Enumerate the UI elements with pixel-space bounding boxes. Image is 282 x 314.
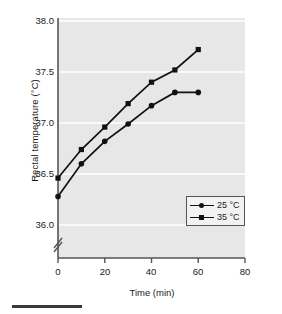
legend-item-35c: 35 °C	[190, 211, 240, 223]
data-point-square	[149, 80, 154, 85]
legend-label: 35 °C	[217, 212, 240, 222]
data-point-circle	[102, 139, 108, 145]
x-axis-title: Time (min)	[58, 287, 246, 298]
legend: 25 °C 35 °C	[186, 196, 245, 226]
x-axis-tick-labels: 0 20 40 60 80	[0, 266, 282, 280]
data-point-circle	[172, 90, 178, 96]
figure-chart: Rectal temperature (°C) 38.0 37.5 37.0 3…	[0, 0, 282, 314]
data-point-square	[172, 67, 177, 72]
caption-rule	[12, 305, 82, 308]
data-point-circle	[125, 121, 131, 127]
data-point-square	[126, 101, 131, 106]
x-tick-label: 40	[136, 266, 166, 277]
x-tick-label: 60	[183, 266, 213, 277]
x-tick-label: 20	[90, 266, 120, 277]
data-point-square	[79, 147, 84, 152]
x-tick-label: 80	[230, 266, 260, 277]
x-tick-label: 0	[43, 266, 73, 277]
legend-item-25c: 25 °C	[190, 199, 240, 211]
legend-marker-circle-icon	[190, 200, 214, 210]
legend-marker-square-icon	[190, 212, 214, 222]
data-point-circle	[195, 90, 201, 96]
data-point-square	[196, 47, 201, 52]
data-point-square	[102, 124, 107, 129]
data-point-circle	[79, 161, 85, 167]
data-point-circle	[55, 194, 61, 200]
legend-label: 25 °C	[217, 200, 240, 210]
data-point-circle	[149, 103, 155, 109]
data-point-square	[55, 175, 60, 180]
